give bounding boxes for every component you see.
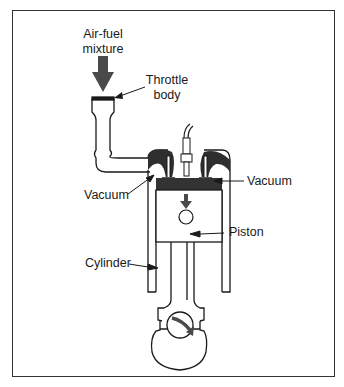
label-vacuum-right: Vacuum [247,174,292,189]
label-piston: Piston [229,225,264,240]
label-throttle-body: Throttle body [142,73,192,103]
engine-intake-diagram [0,0,344,387]
combustion-chamber [156,178,222,190]
throttle-pointer [114,87,145,99]
label-vacuum-left: Vacuum [84,188,129,203]
label-cylinder: Cylinder [85,256,131,271]
label-air-fuel-mixture: Air-fuel mixture [82,27,124,57]
label-throttle-line2: body [142,88,192,103]
label-air-fuel-line1: Air-fuel [82,27,124,42]
label-air-fuel-line2: mixture [82,42,124,57]
air-flow-arrow-icon [92,56,114,92]
cylinder-head [148,124,230,180]
label-throttle-line1: Throttle [142,73,192,88]
throttle-body [92,97,150,172]
connecting-rod [152,242,207,370]
